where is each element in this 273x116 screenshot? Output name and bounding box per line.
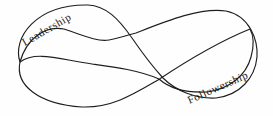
- infinity-ribbon-diagram: Leadership Followership: [0, 0, 273, 116]
- followership-label: Followership: [185, 68, 250, 106]
- ribbon-strand-inner: [19, 29, 253, 107]
- infinity-ribbon-svg: Leadership Followership: [0, 0, 273, 116]
